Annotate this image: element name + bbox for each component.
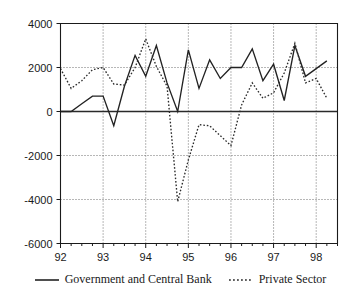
- legend-item-government-and-central-bank: Government and Central Bank: [34, 272, 212, 287]
- x-axis-label: 92: [54, 251, 66, 263]
- series-line-government-and-central-bank: [61, 46, 327, 126]
- y-axis-label: 0: [46, 106, 52, 118]
- y-axis-tick-labels: 400020000-2000-4000-6000: [24, 18, 52, 250]
- plot-frame: [61, 24, 338, 244]
- data-series-group: [61, 39, 327, 202]
- y-axis-label: -2000: [24, 150, 52, 162]
- chart-legend: Government and Central Bank Private Sect…: [0, 272, 360, 287]
- legend-label: Private Sector: [259, 272, 327, 287]
- x-axis-label: 98: [310, 251, 322, 263]
- x-axis-label: 96: [225, 251, 237, 263]
- y-axis-label: 2000: [28, 62, 52, 74]
- series-line-private-sector: [61, 39, 327, 202]
- x-axis-label: 94: [140, 251, 152, 263]
- x-axis-tick-labels: 92939495969798: [54, 251, 322, 263]
- legend-swatch-solid-icon: [34, 276, 60, 284]
- legend-label: Government and Central Bank: [65, 272, 212, 287]
- line-chart-plot: 400020000-2000-4000-6000 92939495969798: [0, 0, 360, 300]
- axis-tick-marks: [57, 24, 338, 249]
- chart-container: 400020000-2000-4000-6000 92939495969798 …: [0, 0, 360, 300]
- legend-swatch-dotted-icon: [228, 276, 254, 284]
- y-axis-label: 4000: [28, 18, 52, 30]
- plot-border: [61, 24, 338, 244]
- legend-item-private-sector: Private Sector: [228, 272, 327, 287]
- vertical-gridlines: [61, 24, 317, 244]
- x-axis-label: 95: [182, 251, 194, 263]
- x-axis-label: 93: [97, 251, 109, 263]
- y-axis-label: -4000: [24, 194, 52, 206]
- y-axis-label: -6000: [24, 238, 52, 250]
- x-axis-label: 97: [267, 251, 279, 263]
